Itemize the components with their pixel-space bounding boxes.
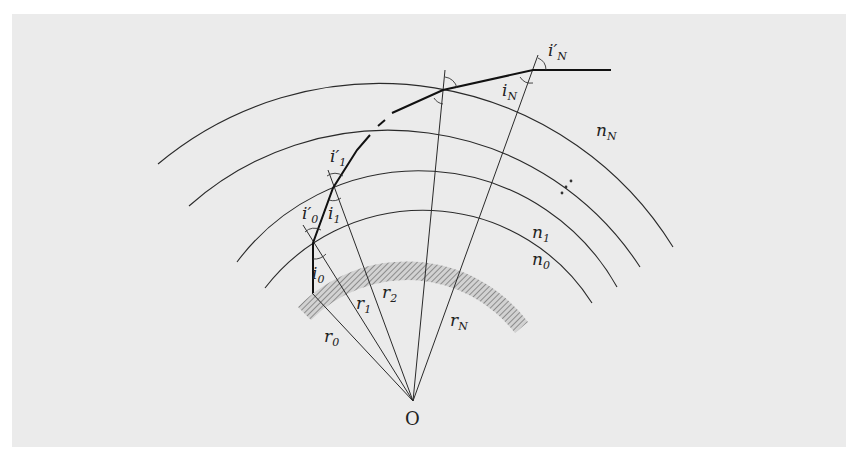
label-nN: nN: [596, 120, 617, 143]
radii: [303, 55, 538, 401]
radius-rN: [413, 55, 538, 401]
radius-r2: [413, 70, 445, 401]
label-i0: i0: [312, 263, 324, 286]
refraction-diagram: i0 i′0 i1 i′1 iN i′N r0 r1 r2 rN n0 n1 n…: [0, 0, 858, 461]
boundary-rN-outer: [158, 83, 673, 247]
label-n0: n0: [532, 249, 550, 272]
label-r0: r0: [324, 326, 339, 349]
label-i1: i1: [328, 203, 340, 226]
label-iN: iN: [502, 80, 517, 103]
label-iN-prime: i′N: [548, 40, 567, 63]
label-i0-prime: i′0: [302, 203, 318, 226]
label-r2: r2: [382, 282, 397, 305]
boundary-rN-inner: [189, 130, 640, 267]
ray-path: [313, 70, 611, 293]
label-n1: n1: [532, 222, 550, 245]
label-center-O: O: [405, 408, 420, 429]
label-i1-prime: i′1: [330, 146, 346, 169]
label-r1: r1: [356, 293, 371, 316]
label-rN: rN: [450, 310, 468, 333]
